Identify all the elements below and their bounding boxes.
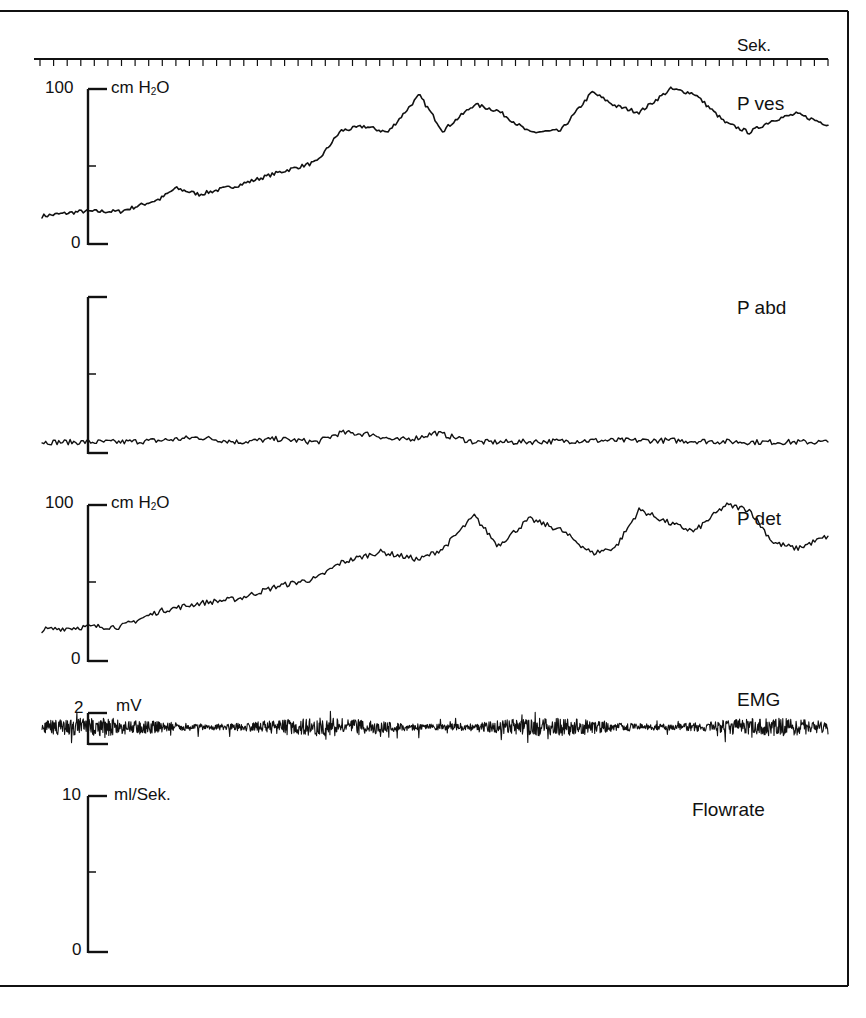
flow-scale-bar <box>88 796 108 953</box>
pves-trace <box>42 87 828 218</box>
pves-min-label: 0 <box>71 234 80 251</box>
pdet-trace <box>42 503 828 633</box>
emg-unit-label: mV <box>116 697 142 714</box>
flow-unit-label: ml/Sek. <box>114 786 171 803</box>
time-unit-label: Sek. <box>737 37 771 54</box>
pves-max-label: 100 <box>45 79 73 96</box>
pdet-channel-label: P det <box>737 509 781 528</box>
pabd-trace <box>42 430 828 445</box>
pdet-scale-bar <box>88 505 108 662</box>
flow-channel-label: Flowrate <box>692 800 765 819</box>
pabd-channel-label: P abd <box>737 298 786 317</box>
pdet-unit-label: cm H2O <box>111 494 169 512</box>
pves-channel-label: P ves <box>737 94 784 113</box>
pabd-scale-bar <box>88 297 108 454</box>
pdet-min-label: 0 <box>71 650 80 667</box>
flow-max-label: 10 <box>62 786 81 803</box>
scale-bars <box>88 89 108 953</box>
pdet-max-label: 100 <box>45 494 73 511</box>
time-axis <box>34 59 828 66</box>
emg-max-label: 2 <box>74 699 83 716</box>
emg-channel-label: EMG <box>737 690 780 709</box>
pves-unit-label: cm H2O <box>111 79 169 97</box>
emg-trace <box>42 711 828 742</box>
flow-min-label: 0 <box>72 941 81 958</box>
pves-scale-bar <box>88 89 108 245</box>
